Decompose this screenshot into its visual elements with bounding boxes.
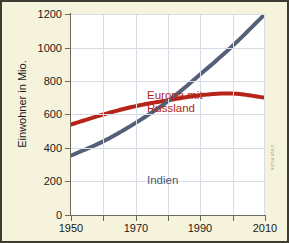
y-tick-label-400: 400	[44, 143, 62, 154]
x-tick-mark-1980	[168, 216, 169, 221]
plot-area: Europa mit Russland Indien	[71, 14, 265, 215]
source-credit: 93734-478-3	[270, 145, 275, 170]
y-tick-label-0: 0	[56, 210, 62, 221]
x-tick-mark-2000	[233, 216, 234, 221]
y-tick-mark-400	[65, 148, 70, 149]
gridline-horizontal-400	[71, 148, 265, 149]
x-tick-mark-2010	[265, 216, 266, 221]
series-label-europa: Europa mit Russland	[147, 89, 203, 114]
y-tick-label-800: 800	[44, 76, 62, 87]
y-tick-mark-1200	[65, 14, 70, 15]
gridline-horizontal-1000	[71, 48, 265, 49]
x-tick-label-1990: 1990	[183, 223, 217, 234]
x-tick-mark-1990	[200, 216, 201, 221]
y-tick-mark-1000	[65, 48, 70, 49]
y-tick-label-600: 600	[44, 109, 62, 120]
series-label-indien: Indien	[147, 174, 178, 187]
y-tick-mark-600	[65, 114, 70, 115]
x-tick-label-2010: 2010	[248, 223, 282, 234]
x-tick-mark-1950	[71, 216, 72, 221]
y-tick-label-200: 200	[44, 176, 62, 187]
x-tick-mark-1970	[136, 216, 137, 221]
y-axis-line	[70, 13, 71, 216]
y-tick-mark-800	[65, 81, 70, 82]
gridline-horizontal-800	[71, 81, 265, 82]
x-tick-label-1970: 1970	[119, 223, 153, 234]
gridline-horizontal-600	[71, 114, 265, 115]
y-axis-title: Einwohner in Mio.	[16, 29, 28, 179]
gridline-horizontal-1200	[71, 14, 265, 15]
x-tick-label-1950: 1950	[54, 223, 88, 234]
chart-figure: Europa mit Russland Indien 1200 1000 800…	[0, 0, 289, 243]
y-tick-mark-200	[65, 181, 70, 182]
y-tick-mark-0	[65, 215, 70, 216]
y-tick-label-1200: 1200	[38, 9, 62, 20]
y-tick-label-1000: 1000	[38, 43, 62, 54]
x-tick-mark-1960	[103, 216, 104, 221]
